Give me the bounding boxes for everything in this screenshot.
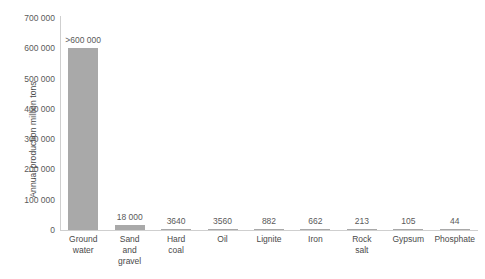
bar-series: >600 00018 0003640356088266221310544 (60, 18, 478, 230)
bar-slot: 662 (292, 18, 338, 230)
y-axis-tick-2: 200 000 (3, 164, 55, 174)
bar[interactable] (161, 229, 191, 230)
x-axis-label-1: Sandandgravel (106, 234, 152, 267)
bar[interactable] (347, 229, 377, 230)
bar[interactable] (300, 229, 330, 230)
bar-value-label: 882 (262, 216, 276, 226)
x-axis-line (60, 230, 478, 231)
bar-slot: 105 (385, 18, 431, 230)
y-axis-tick-5: 500 000 (3, 74, 55, 84)
bar-value-label: 44 (450, 216, 459, 226)
bar-value-label: >600 000 (65, 35, 101, 45)
y-axis-tick-4: 400 000 (3, 104, 55, 114)
y-axis-tick-7: 700 000 (3, 13, 55, 23)
bar-slot: >600 000 (60, 18, 106, 230)
x-axis-label-3: Oil (199, 234, 245, 245)
bar-slot: 44 (432, 18, 478, 230)
y-axis-tick-0: 0 (3, 225, 55, 235)
bar[interactable] (68, 48, 98, 230)
bar[interactable] (440, 229, 470, 230)
x-axis-label-5: Iron (292, 234, 338, 245)
x-axis-category-labels: GroundwaterSandandgravelHardcoalOilLigni… (60, 234, 478, 279)
x-axis-label-0: Groundwater (60, 234, 106, 256)
bar-value-label: 213 (355, 216, 369, 226)
y-axis-tick-labels: 0100 000200 000300 000400 000500 000600 … (0, 0, 55, 279)
bar-slot: 882 (246, 18, 292, 230)
x-axis-label-6: Rocksalt (339, 234, 385, 256)
bar-value-label: 662 (308, 216, 322, 226)
bar-slot: 3640 (153, 18, 199, 230)
bar-slot: 213 (339, 18, 385, 230)
y-axis-tick-1: 100 000 (3, 195, 55, 205)
bar-slot: 18 000 (106, 18, 152, 230)
bar-value-label: 18 000 (117, 212, 143, 222)
bar-slot: 3560 (199, 18, 245, 230)
y-axis-tick-6: 600 000 (3, 43, 55, 53)
bar[interactable] (254, 229, 284, 230)
y-axis-tick-3: 300 000 (3, 134, 55, 144)
bar[interactable] (393, 229, 423, 230)
x-axis-label-4: Lignite (246, 234, 292, 245)
x-axis-label-7: Gypsum (385, 234, 431, 245)
bar[interactable] (115, 225, 145, 230)
bar-value-label: 3640 (167, 216, 186, 226)
bar-chart: Annual production million tons 0100 0002… (0, 0, 485, 279)
bar[interactable] (208, 229, 238, 230)
x-axis-label-2: Hardcoal (153, 234, 199, 256)
bar-value-label: 3560 (213, 216, 232, 226)
bar-value-label: 105 (401, 216, 415, 226)
x-axis-label-8: Phosphate (432, 234, 478, 245)
